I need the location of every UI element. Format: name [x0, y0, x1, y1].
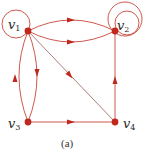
node-v3: [25, 119, 32, 126]
node-v1: [25, 28, 32, 35]
node-v4: [112, 119, 119, 126]
label-v2: v2: [117, 19, 129, 34]
arrow-icon-v4-v2: [113, 76, 118, 84]
edge-v3-v1-left: [19, 31, 28, 122]
figure-caption: (a): [61, 138, 73, 149]
edge-v1-v2-upper: [28, 20, 115, 31]
edge-v1-v3-right: [28, 31, 37, 122]
arrow-icon-v1-v2-lower: [67, 40, 75, 45]
edge-v1-v2-lower: [28, 31, 115, 42]
arrow-icon-v3-v4: [67, 120, 75, 125]
arrow-icon-v3-v1: [13, 74, 18, 82]
label-v4: v4: [123, 117, 135, 132]
label-v3: v3: [8, 117, 20, 132]
arrow-icon-v1-v3: [35, 69, 40, 77]
label-v1: v1: [8, 18, 20, 33]
arrow-icon-v1-v2-upper: [67, 18, 75, 23]
